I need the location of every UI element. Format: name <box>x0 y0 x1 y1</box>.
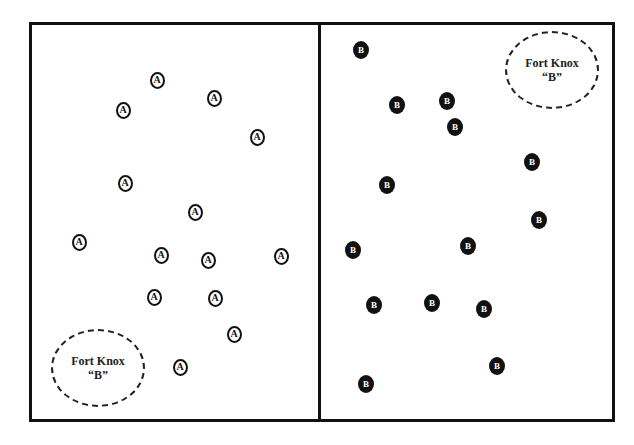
marker-b: B <box>524 153 540 171</box>
marker-b: B <box>531 211 547 229</box>
fort-knox-subtitle: “B” <box>542 70 562 84</box>
marker-a: A <box>154 247 169 264</box>
diagram-canvas: Fort Knox “B” Fort Knox “B” AAAAAAAAAAAA… <box>0 0 634 445</box>
marker-a: A <box>173 359 188 376</box>
fort-knox-subtitle: “B” <box>88 368 108 382</box>
panel-divider <box>318 22 321 419</box>
marker-b: B <box>389 96 405 114</box>
marker-a: A <box>118 175 133 192</box>
marker-b: B <box>447 118 463 136</box>
marker-b: B <box>345 241 361 259</box>
marker-a: A <box>188 204 203 221</box>
fort-knox-title: Fort Knox <box>71 354 125 368</box>
marker-a: A <box>208 290 223 307</box>
fort-knox-title: Fort Knox <box>525 56 579 70</box>
marker-a: A <box>207 90 222 107</box>
marker-b: B <box>476 300 492 318</box>
marker-b: B <box>353 41 369 59</box>
marker-a: A <box>116 102 131 119</box>
marker-a: A <box>274 248 289 265</box>
marker-a: A <box>250 129 265 146</box>
fort-knox-right: Fort Knox “B” <box>505 31 599 109</box>
marker-b: B <box>424 294 440 312</box>
marker-a: A <box>147 289 162 306</box>
marker-a: A <box>72 234 87 251</box>
marker-a: A <box>201 252 216 269</box>
marker-a: A <box>150 72 165 89</box>
marker-b: B <box>379 176 395 194</box>
marker-b: B <box>439 92 455 110</box>
marker-b: B <box>489 357 505 375</box>
fort-knox-left: Fort Knox “B” <box>51 329 145 407</box>
marker-b: B <box>366 296 382 314</box>
marker-b: B <box>358 375 374 393</box>
marker-b: B <box>460 237 476 255</box>
marker-a: A <box>227 326 242 343</box>
